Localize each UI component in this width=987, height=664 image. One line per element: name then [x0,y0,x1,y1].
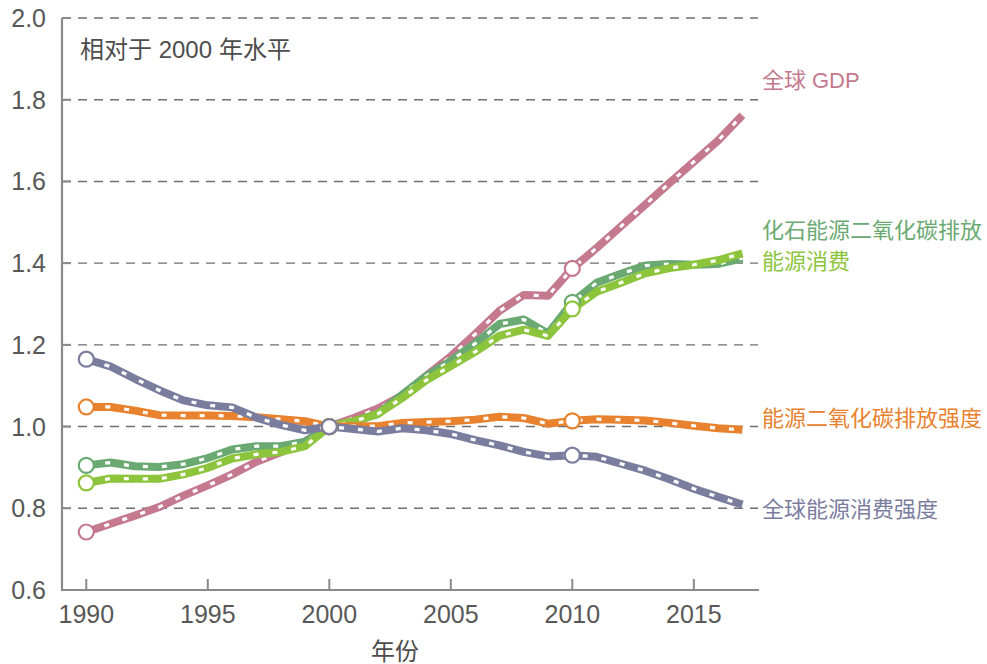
decade-marker [79,475,94,490]
x-tick-label: 2005 [423,600,479,628]
line-chart: 0.60.81.01.21.41.61.82.0 199019952000200… [0,0,987,664]
decade-marker [79,524,94,539]
decade-marker [79,399,94,414]
decade-marker [322,419,337,434]
series-label-0: 全球 GDP [762,68,860,93]
x-tick-label: 2010 [545,600,601,628]
y-tick-label: 1.0 [11,413,46,441]
decade-marker [79,352,94,367]
x-tick-label: 2015 [666,600,722,628]
y-tick-label: 2.0 [11,4,46,32]
series-label-2: 能源消费 [762,249,850,274]
series-label-1: 化石能源二氧化碳排放 [762,218,982,243]
plot-annotation: 相对于 2000 年水平 [80,36,291,63]
series-lines-group [86,115,742,532]
series-line [86,258,742,467]
y-tick-label: 1.6 [11,167,46,195]
x-tick-label: 1995 [180,600,236,628]
decade-marker [565,448,580,463]
y-axis-tick-labels: 0.60.81.01.21.41.61.82.0 [11,4,46,604]
decade-marker [79,458,94,473]
series-line [86,253,742,483]
series-line-dash-overlay [86,258,742,467]
decade-marker [565,301,580,316]
x-axis-title: 年份 [371,638,419,664]
series-line-dash-overlay [86,253,742,483]
y-tick-label: 1.8 [11,86,46,114]
series-labels-group: 全球 GDP化石能源二氧化碳排放能源消费能源二氧化碳排放强度全球能源消费强度 [762,68,982,522]
y-tick-label: 0.8 [11,494,46,522]
y-tick-label: 0.6 [11,576,46,604]
x-axis-tick-labels: 199019952000200520102015 [58,600,721,628]
x-tick-label: 1990 [58,600,114,628]
x-tick-label: 2000 [301,600,357,628]
series-label-3: 能源二氧化碳排放强度 [762,406,982,431]
chart-container: 0.60.81.01.21.41.61.82.0 199019952000200… [0,0,987,664]
decade-marker [565,413,580,428]
y-tick-label: 1.2 [11,331,46,359]
y-tick-label: 1.4 [11,249,46,277]
decade-marker [565,261,580,276]
series-label-4: 全球能源消费强度 [762,497,938,522]
